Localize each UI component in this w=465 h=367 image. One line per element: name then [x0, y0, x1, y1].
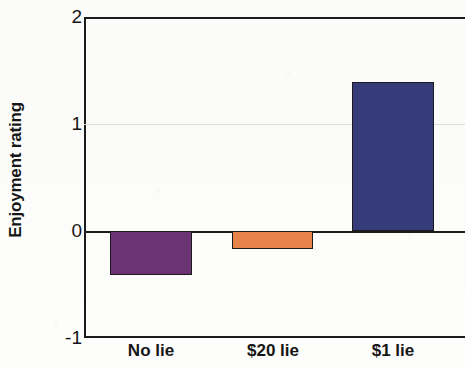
bar-no-lie — [110, 231, 192, 275]
y-axis-line — [84, 17, 86, 338]
y-tick-label-1: 1 — [36, 113, 82, 135]
y-axis-title-text: Enjoyment rating — [6, 102, 26, 238]
y-tick-label-neg1: -1 — [36, 327, 82, 349]
plot-area — [84, 17, 465, 338]
x-tick-label-1-dollar-lie: $1 lie — [372, 341, 415, 361]
bar-chart-figure: Enjoyment rating 2 1 0 -1 No lie $20 lie… — [0, 0, 465, 367]
plot-bottom-border — [84, 336, 465, 338]
x-tick-label-no-lie: No lie — [128, 341, 174, 361]
y-axis-tick-labels: 2 1 0 -1 — [24, 0, 82, 367]
y-tick-label-0: 0 — [36, 220, 82, 242]
plot-top-border — [84, 17, 465, 19]
x-axis-tick-labels: No lie $20 lie $1 lie — [84, 341, 465, 367]
bar-20-dollar-lie — [232, 231, 313, 249]
x-tick-label-20-dollar-lie: $20 lie — [247, 341, 299, 361]
bar-1-dollar-lie — [352, 82, 434, 231]
y-tick-label-2: 2 — [36, 6, 82, 28]
